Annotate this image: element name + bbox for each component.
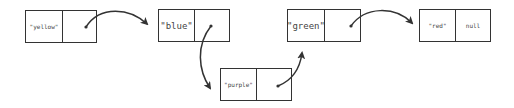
arrow-purple-to-green — [276, 53, 302, 88]
arrow-green-to-red — [349, 11, 412, 28]
arrows — [0, 0, 514, 108]
arrow-yellow-to-blue — [84, 11, 147, 28]
arrow-blue-to-purple — [200, 24, 212, 88]
